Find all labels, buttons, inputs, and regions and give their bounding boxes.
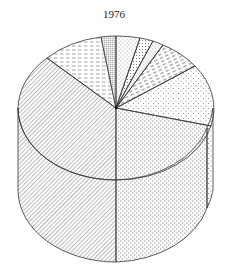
cylinder-top	[18, 36, 214, 180]
cylinder-pie-chart	[0, 0, 228, 277]
